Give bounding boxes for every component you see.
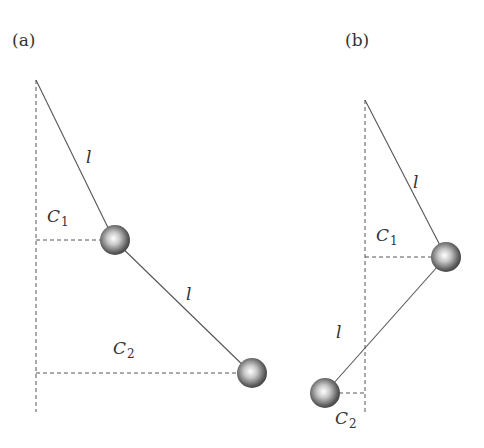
rod-1-label: l (413, 172, 418, 192)
bob-1 (100, 225, 130, 255)
c2-label: C2 (113, 338, 135, 361)
rod-2 (325, 257, 446, 393)
panel-b: (b) l l C1 C2 (310, 30, 461, 431)
bob-2 (310, 378, 340, 408)
panel-a-label: (a) (12, 30, 35, 50)
c1-label: C1 (376, 225, 398, 248)
rod-2-label: l (186, 284, 191, 304)
c2-label: C2 (335, 408, 357, 431)
rod-1-label: l (86, 147, 91, 167)
panel-b-label: (b) (345, 30, 369, 50)
double-pendulum-diagram: (a) l l C1 C2 (b) l l C1 C2 (0, 0, 484, 448)
panel-a: (a) l l C1 C2 (12, 30, 267, 412)
rod-2-label: l (336, 322, 341, 342)
c1-label: C1 (47, 206, 69, 229)
bob-1 (431, 242, 461, 272)
bob-2 (237, 358, 267, 388)
